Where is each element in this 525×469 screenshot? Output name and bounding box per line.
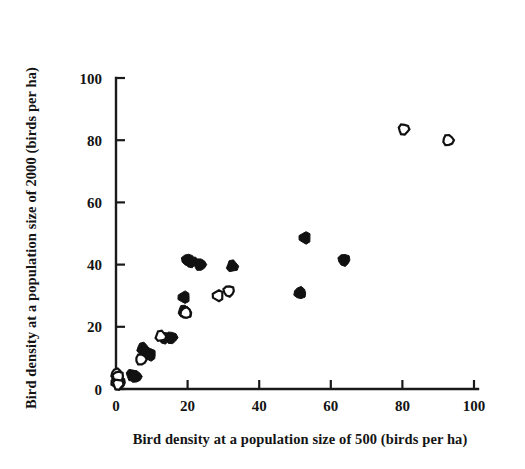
x-tick-label: 80	[395, 398, 410, 414]
chart-canvas: 020406080100 020406080100 Bird density a…	[0, 0, 525, 469]
y-tick-label: 20	[87, 319, 102, 335]
x-tick-label: 20	[180, 398, 195, 414]
y-tick-label: 0	[95, 382, 103, 398]
y-axis-title: Bird density at a population size of 200…	[23, 67, 40, 409]
x-tick-label: 40	[252, 398, 267, 414]
data-point-open	[443, 135, 454, 145]
data-point-open	[223, 286, 233, 296]
x-tick-label: 60	[323, 398, 338, 414]
x-axis-title: Bird density at a population size of 500…	[133, 431, 468, 448]
y-tick-label: 100	[80, 71, 103, 87]
y-tick-label: 60	[87, 195, 102, 211]
x-tick-label: 100	[463, 398, 486, 414]
y-tick-label: 80	[87, 133, 102, 149]
scatter-plot-figure: 020406080100 020406080100 Bird density a…	[0, 0, 525, 469]
data-point-open	[213, 290, 223, 301]
y-tick-label: 40	[87, 257, 102, 273]
x-tick-label: 0	[112, 398, 120, 414]
data-point-open	[136, 355, 146, 365]
data-point-open	[180, 307, 190, 318]
